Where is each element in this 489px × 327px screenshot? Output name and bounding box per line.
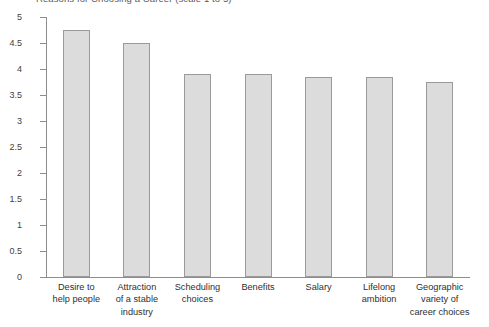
y-axis-tick-label: 0.5: [0, 247, 22, 256]
bar: [184, 74, 211, 277]
bar: [366, 77, 393, 277]
y-axis-tick-label: 4: [0, 65, 22, 74]
x-axis-line: [46, 277, 470, 278]
y-axis-tick: [40, 69, 46, 70]
x-axis-category-line: help people: [43, 293, 110, 305]
y-axis-tick-label: 1.5: [0, 195, 22, 204]
x-axis-category-label: Lifelongambition: [346, 281, 413, 306]
bar: [245, 74, 272, 277]
x-axis-labels: Desire tohelp peopleAttractionof a stabl…: [46, 281, 470, 327]
bar: [305, 77, 332, 277]
y-axis-tick-label: 3.5: [0, 91, 22, 100]
x-axis-category-label: Benefits: [225, 281, 292, 293]
y-axis-tick: [40, 225, 46, 226]
chart-title-text: Reasons for Choosing a Career (scale 1 t…: [36, 0, 232, 4]
y-axis-tick: [40, 121, 46, 122]
x-axis-category-line: of a stable: [104, 293, 171, 305]
y-axis-tick: [40, 17, 46, 18]
y-axis-tick: [40, 173, 46, 174]
bar: [426, 82, 453, 277]
x-axis-category-line: industry: [104, 306, 171, 318]
y-axis-tick: [40, 199, 46, 200]
x-axis-category-line: Scheduling: [164, 281, 231, 293]
y-axis-tick-label: 1: [0, 221, 22, 230]
y-axis-tick-label: 5: [0, 13, 22, 22]
chart-title-clipped: Reasons for Choosing a Career (scale 1 t…: [36, 0, 456, 4]
y-axis-tick: [40, 43, 46, 44]
y-axis-tick-label: 3: [0, 117, 22, 126]
x-axis-category-line: Desire to: [43, 281, 110, 293]
x-axis-category-line: Lifelong: [346, 281, 413, 293]
x-axis-category-line: Benefits: [225, 281, 292, 293]
x-axis-category-label: Desire tohelp people: [43, 281, 110, 306]
x-axis-category-line: variety of: [406, 293, 473, 305]
y-axis-tick: [40, 251, 46, 252]
y-axis-labels: 54.543.532.521.510.50: [0, 17, 22, 277]
y-axis-line: [46, 17, 47, 277]
chart-screenshot: Reasons for Choosing a Career (scale 1 t…: [0, 0, 489, 327]
x-axis-category-label: Schedulingchoices: [164, 281, 231, 306]
y-axis-tick: [40, 277, 46, 278]
x-axis-category-label: Salary: [285, 281, 352, 293]
x-axis-category-line: Geographic: [406, 281, 473, 293]
x-axis-category-label: Geographicvariety ofcareer choices: [406, 281, 473, 318]
x-axis-category-line: career choices: [406, 306, 473, 318]
y-axis-tick: [40, 147, 46, 148]
x-axis-category-line: Salary: [285, 281, 352, 293]
plot-area: [46, 17, 470, 277]
bar: [63, 30, 90, 277]
x-axis-category-label: Attractionof a stableindustry: [104, 281, 171, 318]
bar: [123, 43, 150, 277]
y-axis-tick-label: 0: [0, 273, 22, 282]
y-axis-tick: [40, 95, 46, 96]
y-axis-tick-label: 2.5: [0, 143, 22, 152]
x-axis-category-line: Attraction: [104, 281, 171, 293]
x-axis-category-line: choices: [164, 293, 231, 305]
x-axis-category-line: ambition: [346, 293, 413, 305]
y-axis-tick-label: 2: [0, 169, 22, 178]
y-axis-tick-label: 4.5: [0, 39, 22, 48]
